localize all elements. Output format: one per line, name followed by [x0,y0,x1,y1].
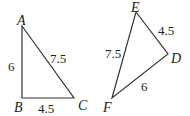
triangles-diagram: A B C 6 4.5 7.5 E D F 4.5 6 7.5 [0,0,190,116]
side-ef-length: 7.5 [105,46,121,61]
side-ed-length: 4.5 [158,23,174,38]
side-bc-length: 4.5 [38,101,54,116]
vertex-f-label: F [102,100,112,115]
vertex-d-label: D [170,51,181,66]
side-ac-length: 7.5 [50,51,66,66]
side-ab-length: 6 [8,59,15,74]
vertex-e-label: E [130,0,140,15]
side-df-length: 6 [141,79,148,94]
vertex-c-label: C [78,98,88,113]
triangle-edf: E D F 4.5 6 7.5 [102,0,181,115]
triangle-abc: A B C 6 4.5 7.5 [8,13,88,116]
vertex-b-label: B [14,100,23,115]
vertex-a-label: A [16,13,26,28]
